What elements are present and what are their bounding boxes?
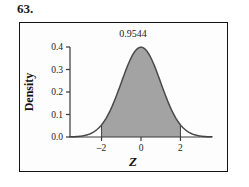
y-tick-label: 0.1 xyxy=(51,110,63,120)
y-tick-label: 0.2 xyxy=(51,87,63,97)
x-axis-tick-labels: –202 xyxy=(96,143,183,153)
x-tick-label: 2 xyxy=(178,143,183,153)
y-tick-label: 0.0 xyxy=(51,132,63,142)
y-tick-label: 0.3 xyxy=(51,65,63,75)
normal-curve-plot: 0.00.10.20.30.4 –202 0.9544 Z Density xyxy=(0,0,249,187)
figure-container: 63. 0.00.10.20.30.4 –202 0.9544 Z Densit… xyxy=(0,0,249,187)
shaded-area-region xyxy=(102,47,181,137)
x-tick-label: –2 xyxy=(96,143,107,153)
y-axis-tick-labels: 0.00.10.20.30.4 xyxy=(51,42,63,142)
y-tick-label: 0.4 xyxy=(51,42,63,52)
y-axis-title: Density xyxy=(22,73,36,112)
x-axis-title: Z xyxy=(128,154,137,169)
shaded-area-annotation: 0.9544 xyxy=(119,28,147,39)
x-tick-label: 0 xyxy=(139,143,144,153)
x-axis-ticks xyxy=(102,137,181,141)
